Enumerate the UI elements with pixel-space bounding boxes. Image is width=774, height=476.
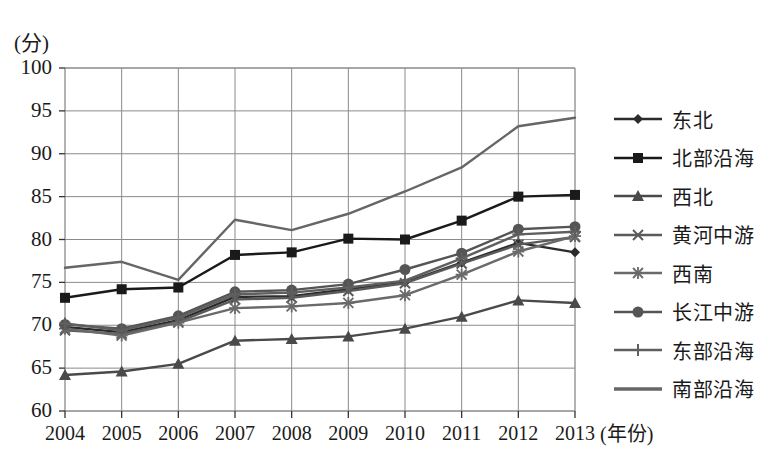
x-tick-label: 2010	[375, 422, 435, 445]
legend-item-6[interactable]: 东部沿海	[612, 331, 772, 370]
x-tick-label: 2012	[488, 422, 548, 445]
series-6	[59, 226, 581, 337]
legend-marker-cross-icon	[612, 225, 664, 245]
legend-item-3[interactable]: 黄河中游	[612, 216, 772, 255]
legend-item-4[interactable]: 西南	[612, 254, 772, 293]
series-2	[59, 294, 581, 380]
legend-item-2[interactable]: 西北	[612, 177, 772, 216]
legend-label: 西南	[664, 259, 713, 288]
y-tick-label: 95	[8, 98, 52, 123]
gridlines	[65, 68, 575, 411]
x-tick-label: 2009	[318, 422, 378, 445]
series-7	[65, 118, 575, 280]
legend-item-1[interactable]: 北部沿海	[612, 139, 772, 178]
x-tick-label: 2004	[35, 422, 95, 445]
legend-item-7[interactable]: 南部沿海	[612, 370, 772, 409]
x-tick-label: 2006	[148, 422, 208, 445]
x-axis-title: (年份)	[600, 418, 653, 447]
series-5	[60, 221, 581, 334]
legend-label: 南部沿海	[664, 374, 754, 403]
legend-marker-none-icon	[612, 379, 664, 399]
legend-marker-star-icon	[612, 263, 664, 283]
y-tick-label: 80	[8, 227, 52, 252]
legend-marker-diamond-icon	[612, 109, 664, 129]
y-tick-label: 70	[8, 312, 52, 337]
legend-item-5[interactable]: 长江中游	[612, 293, 772, 332]
x-tick-label: 2008	[262, 422, 322, 445]
legend-label: 东部沿海	[664, 336, 754, 365]
y-tick-label: 60	[8, 398, 52, 423]
legend-item-0[interactable]: 东北	[612, 100, 772, 139]
y-tick-label: 100	[8, 55, 52, 80]
y-tick-label: 85	[8, 184, 52, 209]
legend-label: 黄河中游	[664, 220, 754, 249]
series-1	[60, 190, 580, 303]
legend-label: 西北	[664, 182, 713, 211]
y-tick-label: 75	[8, 269, 52, 294]
y-axis-unit-label: (分)	[14, 26, 49, 56]
y-tick-label: 90	[8, 141, 52, 166]
legend-marker-plus-icon	[612, 340, 664, 360]
legend-label: 北部沿海	[664, 143, 754, 172]
legend-label: 长江中游	[664, 297, 754, 326]
legend-marker-circle-icon	[612, 302, 664, 322]
chart-legend: 东北北部沿海西北黄河中游西南长江中游东部沿海南部沿海	[612, 100, 772, 408]
legend-marker-triangle-icon	[612, 186, 664, 206]
x-tick-label: 2011	[432, 422, 492, 445]
x-tick-label: 2013	[545, 422, 605, 445]
legend-label: 东北	[664, 105, 713, 134]
legend-marker-square-icon	[612, 148, 664, 168]
x-tick-label: 2007	[205, 422, 265, 445]
line-chart: (分) 6065707580859095100 2004200520062007…	[0, 0, 774, 476]
x-tick-label: 2005	[92, 422, 152, 445]
y-tick-label: 65	[8, 355, 52, 380]
